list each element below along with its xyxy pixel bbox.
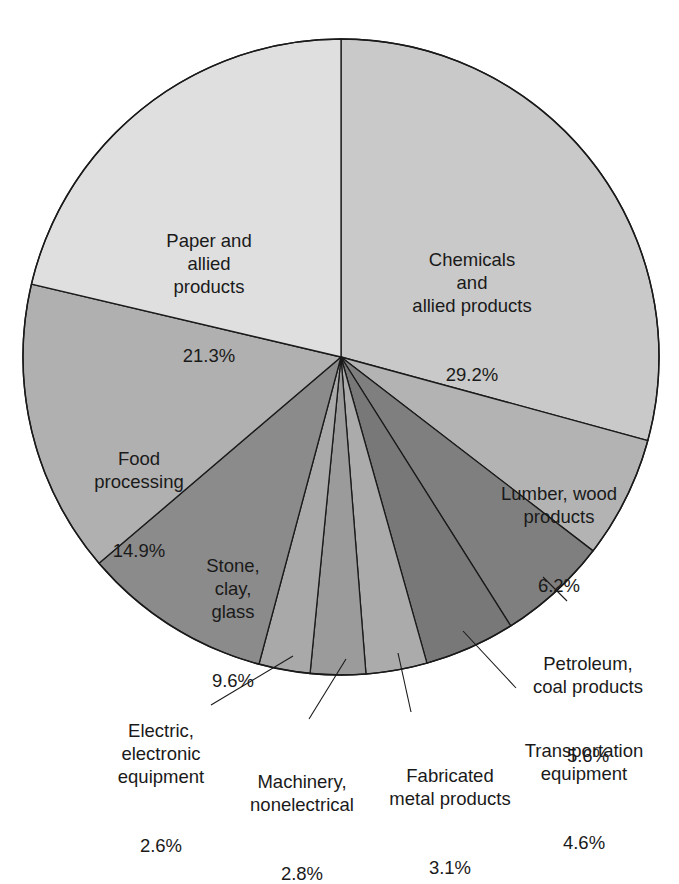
label-food: Food processing 14.9% [94,401,183,585]
label-stone-name: Stone, clay, glass [206,554,260,623]
label-transportation-name: Transportation equipment [525,739,644,785]
label-paper: Paper and allied products 21.3% [166,183,251,390]
label-fabricated: Fabricated metal products 3.1% [389,718,510,884]
label-paper-pct: 21.3% [166,344,251,367]
label-food-pct: 14.9% [94,539,183,562]
label-paper-name: Paper and allied products [166,229,251,298]
label-machinery: Machinery, nonelectrical 2.8% [250,724,354,884]
label-transportation-pct: 4.6% [525,831,644,854]
label-stone: Stone, clay, glass 9.6% [206,508,260,715]
label-electric: Electric, electronic equipment 2.6% [118,673,204,880]
leader-line-transportation [463,631,516,688]
label-stone-pct: 9.6% [206,669,260,692]
label-lumber-name: Lumber, wood products [501,482,617,528]
label-chemicals-pct: 29.2% [412,363,531,386]
label-fabricated-pct: 3.1% [389,856,510,879]
label-chemicals: Chemicals and allied products 29.2% [412,202,531,409]
label-lumber-pct: 6.2% [501,574,617,597]
label-transportation: Transportation equipment 4.6% [525,693,644,877]
label-machinery-pct: 2.8% [250,862,354,884]
label-machinery-name: Machinery, nonelectrical [250,770,354,816]
label-food-name: Food processing [94,447,183,493]
label-petroleum-name: Petroleum, coal products [533,652,643,698]
label-chemicals-name: Chemicals and allied products [412,248,531,317]
label-fabricated-name: Fabricated metal products [389,764,510,810]
label-electric-name: Electric, electronic equipment [118,719,204,788]
label-electric-pct: 2.6% [118,834,204,857]
label-lumber: Lumber, wood products 6.2% [501,436,617,620]
